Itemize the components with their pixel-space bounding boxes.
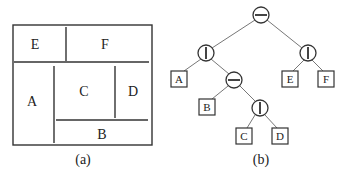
tree-node-left: [198, 45, 214, 61]
region-label-b: B: [97, 127, 106, 142]
caption-b: (b): [253, 152, 270, 168]
leaf-label-c: C: [240, 130, 247, 142]
diagram-canvas: E F A C D B (a): [0, 0, 348, 175]
leaf-label-a: A: [175, 73, 183, 85]
leaf-label-d: D: [276, 130, 284, 142]
region-label-e: E: [31, 37, 40, 52]
region-label-a: A: [27, 94, 38, 109]
tree-node-root: [253, 7, 269, 23]
leaf-label-e: E: [287, 73, 294, 85]
region-label-d: D: [128, 84, 138, 99]
tree-node-right: [300, 45, 316, 61]
leaf-label-f: F: [323, 73, 329, 85]
tree-node-mid: [226, 72, 242, 88]
tree-node-low: [252, 100, 268, 116]
leaf-label-b: B: [203, 101, 210, 113]
caption-a: (a): [75, 152, 91, 168]
region-label-f: F: [101, 37, 109, 52]
region-label-c: C: [79, 84, 88, 99]
